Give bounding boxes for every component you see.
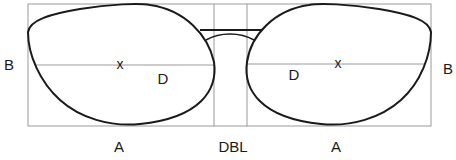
guide-lines xyxy=(28,4,431,126)
lens-width-label-left: A xyxy=(114,139,124,154)
diagonal-label-right: D xyxy=(289,67,300,82)
optical-center-marker-right: x xyxy=(335,56,342,70)
bridge-label: DBL xyxy=(218,139,247,154)
lens-height-label-right: B xyxy=(443,61,453,76)
eyeglass-diagram xyxy=(0,0,456,160)
lens-height-label-left: B xyxy=(4,57,14,72)
lens-width-label-right: A xyxy=(331,139,341,154)
diagonal-label-left: D xyxy=(158,71,169,86)
optical-center-marker-left: x xyxy=(117,57,124,71)
